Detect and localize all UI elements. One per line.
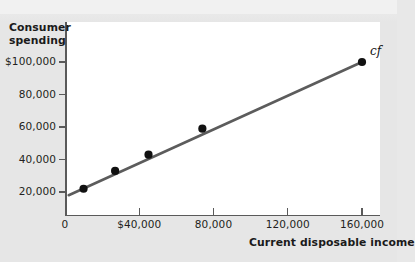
consumption-function-line bbox=[69, 62, 362, 195]
data-point bbox=[198, 125, 206, 133]
data-point bbox=[144, 151, 152, 159]
curve-label-cf: cf bbox=[370, 44, 381, 58]
data-point bbox=[111, 167, 119, 175]
data-point bbox=[358, 58, 366, 66]
data-point bbox=[79, 185, 87, 193]
